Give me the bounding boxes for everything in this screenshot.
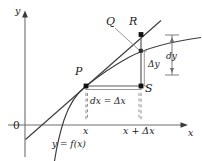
point-label-R: R — [129, 16, 137, 27]
dy-arrow-down-icon — [170, 68, 174, 73]
point-label-P: P — [75, 66, 82, 77]
function-equation-label: y = f(x) — [52, 140, 86, 149]
q-leader-line — [115, 28, 139, 50]
axes-group — [8, 11, 188, 158]
x-plus-delta-x-tick-label: x + Δx — [123, 126, 155, 136]
point-marker-P — [84, 84, 89, 89]
point-label-S: S — [145, 83, 153, 94]
x-tick-label: x — [83, 126, 88, 136]
origin-label: 0 — [13, 120, 20, 131]
dy-arrow-up-icon — [170, 37, 174, 42]
point-marker-Q — [139, 49, 143, 53]
point-label-Q: Q — [106, 16, 115, 27]
figure-canvas — [0, 0, 202, 161]
point-marker-S — [139, 84, 144, 89]
dy-label: dy — [166, 52, 177, 61]
delta-y-label: Δy — [148, 60, 160, 69]
x-axis-label: x — [188, 128, 193, 138]
x-axis-arrow-icon — [181, 122, 189, 128]
point-marker-R — [139, 32, 144, 37]
dx-equals-delta-x-label: dx = Δx — [90, 97, 126, 106]
y-axis-arrow-icon — [22, 11, 28, 18]
differential-figure: y x 0 P Q R S Δy dy dx = Δx x x + Δx y =… — [0, 0, 202, 161]
y-axis-label: y — [15, 6, 20, 16]
